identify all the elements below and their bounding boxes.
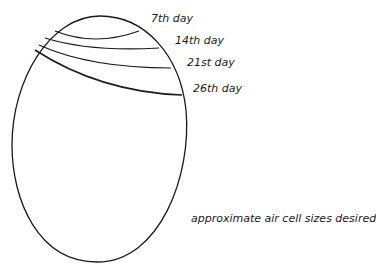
caption: approximate air cell sizes desired (191, 212, 376, 225)
label-7th-day: 7th day (151, 12, 193, 25)
air-cell-line-14th-day (45, 38, 159, 49)
air-cell-line-7th-day (55, 31, 139, 39)
air-cell-line-26th-day (35, 50, 182, 95)
label-21st-day: 21st day (187, 56, 235, 69)
label-14th-day: 14th day (175, 34, 224, 47)
label-26th-day: 26th day (193, 82, 242, 95)
